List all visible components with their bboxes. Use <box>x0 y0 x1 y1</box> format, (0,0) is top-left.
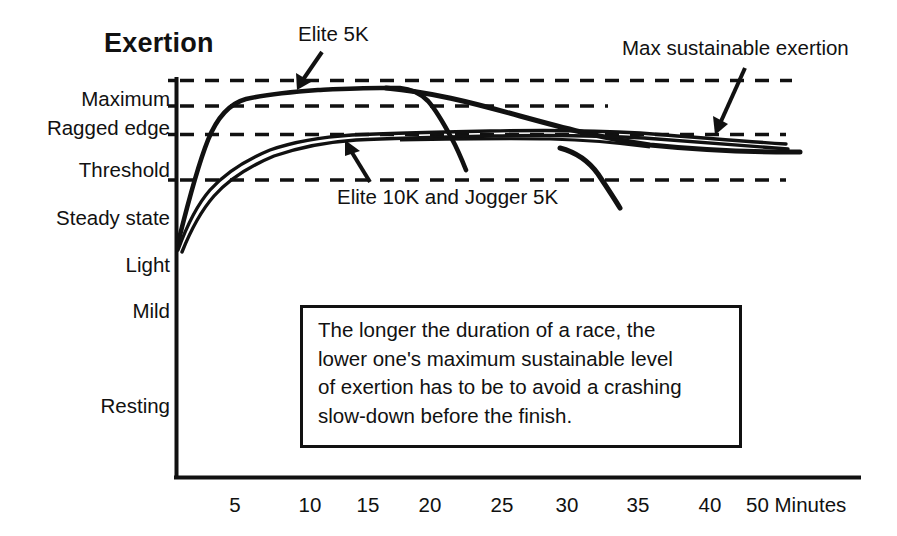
y-axis-label-maximum: Maximum <box>0 87 170 111</box>
x-axis-tick-20: 20 <box>400 493 460 517</box>
arrow-elite-5k <box>296 52 322 90</box>
chart-canvas: Exertion Maximum Ragged edge Threshold S… <box>0 0 897 536</box>
curve-elite-5k-crash <box>560 148 620 208</box>
callout-line-2: lower one's maximum sustainable level <box>318 345 738 374</box>
callout-line-4: slow-down before the finish. <box>318 402 738 431</box>
annotation-elite-10k-jogger-5k: Elite 10K and Jogger 5K <box>337 185 558 209</box>
x-axis-tick-10: 10 <box>280 493 340 517</box>
x-axis-tick-35: 35 <box>608 493 668 517</box>
callout-line-3: of exertion has to be to avoid a crashin… <box>318 373 738 402</box>
x-axis-tick-40: 40 <box>680 493 740 517</box>
y-axis-label-threshold: Threshold <box>0 158 170 182</box>
callout-line-1: The longer the duration of a race, the <box>318 316 738 345</box>
callout-text: The longer the duration of a race, the l… <box>318 316 738 430</box>
x-axis-tick-5: 5 <box>205 493 265 517</box>
arrow-elite-10k-jogger-5k <box>345 140 370 182</box>
annotation-elite-5k: Elite 5K <box>298 22 369 46</box>
annotation-max-sustainable-exertion: Max sustainable exertion <box>622 36 849 60</box>
curve-elite-5k <box>178 88 466 243</box>
x-axis-tick-30: 30 <box>537 493 597 517</box>
y-axis-label-ragged-edge: Ragged edge <box>0 116 170 140</box>
y-axis-label-steady-state: Steady state <box>0 206 170 230</box>
x-axis-unit-label: 50 Minutes <box>746 493 897 517</box>
x-axis-tick-25: 25 <box>472 493 532 517</box>
y-axis-label-light: Light <box>0 253 170 277</box>
y-axis-label-mild: Mild <box>0 299 170 323</box>
arrow-max-sustainable-exertion <box>713 68 745 135</box>
chart-title: Exertion <box>104 28 214 59</box>
x-axis-tick-15: 15 <box>338 493 398 517</box>
y-axis-label-resting: Resting <box>0 394 170 418</box>
